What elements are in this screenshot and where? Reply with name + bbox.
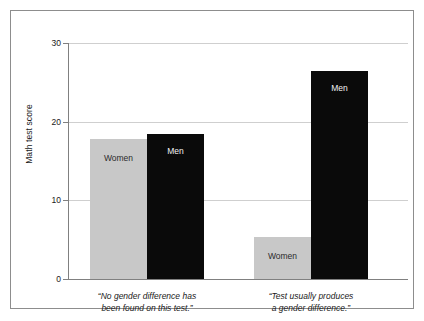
figure-frame: Math test score 30 20 10 0 — [10, 10, 414, 309]
y-tick-label-20: 20 — [52, 117, 61, 127]
plot-area: 30 20 10 0 Women Men — [68, 43, 408, 279]
gridline-30 — [68, 43, 408, 44]
bar-label-group0-men: Men — [147, 146, 204, 156]
category-caption-1-line2: a gender difference.” — [236, 302, 386, 314]
y-tick-label-30: 30 — [52, 38, 61, 48]
x-axis-line — [68, 279, 408, 280]
category-caption-1: “Test usually produces a gender differen… — [236, 290, 386, 314]
bar-label-group1-men: Men — [311, 83, 368, 93]
bar-label-group0-women: Women — [90, 153, 147, 163]
y-tick-label-0: 0 — [56, 274, 61, 284]
bar-label-group1-women: Women — [254, 251, 311, 261]
bar-group0-women[interactable]: Women — [90, 139, 147, 279]
y-axis-line — [68, 43, 69, 279]
bar-chart-figure: Math test score 30 20 10 0 — [0, 0, 424, 321]
bar-group0-men[interactable]: Men — [147, 134, 204, 280]
category-caption-0: “No gender difference has been found on … — [72, 290, 222, 314]
y-axis-title: Math test score — [24, 64, 34, 204]
category-caption-0-line2: been found on this test.” — [72, 302, 222, 314]
bar-group1-men[interactable]: Men — [311, 71, 368, 280]
y-tick-label-10: 10 — [52, 195, 61, 205]
category-caption-1-line1: “Test usually produces — [236, 290, 386, 302]
category-caption-0-line1: “No gender difference has — [72, 290, 222, 302]
bar-group1-women[interactable]: Women — [254, 237, 311, 280]
